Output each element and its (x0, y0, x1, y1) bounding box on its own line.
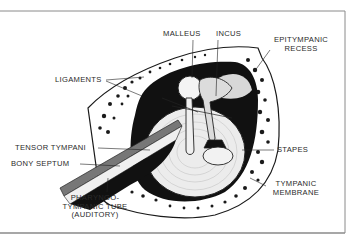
label-tympanic-line2: MEMBRANE (273, 188, 319, 197)
label-tensor-tympani: TENSOR TYMPANI (15, 144, 86, 153)
label-tympanic-membrane: TYMPANIC MEMBRANE (268, 180, 324, 197)
label-epitympanic-recess: EPITYMPANIC RECESS (269, 36, 333, 53)
label-malleus: MALLEUS (163, 30, 201, 39)
diagram-frame: MALLEUS INCUS EPITYMPANIC RECESS LIGAMEN… (0, 0, 351, 243)
label-pharyngotympanic-tube: PHARYNGO- TYMPANIC TUBE (AUDITORY) (55, 194, 135, 220)
label-stapes: STAPES (277, 146, 308, 155)
label-incus: INCUS (216, 30, 241, 39)
label-bony-septum: BONY SEPTUM (11, 160, 69, 169)
label-pharyngo-line3: (AUDITORY) (71, 210, 118, 219)
label-epitympanic-line2: RECESS (284, 44, 317, 53)
label-ligaments: LIGAMENTS (55, 76, 102, 85)
stapes-footplate (203, 147, 233, 165)
